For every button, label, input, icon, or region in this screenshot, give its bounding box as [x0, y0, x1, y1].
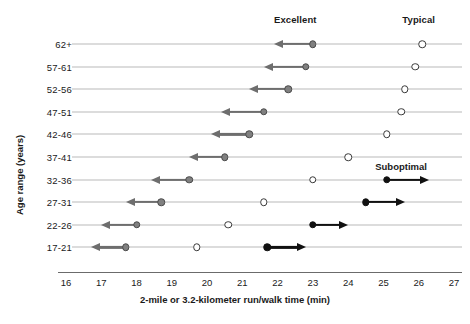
y-tick-label: 32-36 [47, 174, 72, 185]
range-arrow-head [189, 153, 198, 161]
x-tick-label: 18 [131, 277, 142, 288]
range-arrow-head [126, 198, 135, 206]
data-point-typical [309, 176, 317, 184]
y-tick-label: 57-61 [47, 61, 72, 72]
data-point-typical [344, 153, 352, 161]
data-point-excellent [186, 176, 194, 184]
y-tick-label: 62+ [55, 39, 72, 50]
row-baseline [72, 134, 462, 135]
x-axis-label: 2-mile or 3.2-kilometer run/walk time (m… [0, 294, 470, 305]
data-point-typical [411, 63, 419, 71]
data-point-excellent [284, 85, 292, 93]
data-point-excellent [157, 198, 165, 206]
y-tick-label: 27-31 [47, 197, 72, 208]
data-point-typical [397, 108, 405, 116]
range-arrow-head [101, 221, 110, 229]
data-point-typical [419, 40, 427, 48]
data-point-excellent [122, 244, 130, 252]
row-baseline [72, 157, 462, 158]
x-tick-label: 25 [378, 277, 389, 288]
annotation-suboptimal: Suboptimal [375, 161, 427, 172]
x-axis-line [58, 272, 462, 273]
range-arrow-shaft [313, 224, 341, 226]
range-arrow-head [274, 40, 283, 48]
range-arrow-head [91, 243, 100, 251]
y-tick-label: 37-41 [47, 152, 72, 163]
data-point-suboptimal [362, 198, 370, 206]
y-axis-label: Age range (years) [14, 135, 25, 215]
data-point-excellent [309, 40, 317, 48]
range-arrow-shaft [158, 179, 190, 181]
y-tick-label: 22-26 [47, 219, 72, 230]
range-arrow-head [211, 130, 220, 138]
range-arrow-head [249, 85, 258, 93]
data-point-suboptimal [383, 176, 391, 184]
x-tick-label: 23 [308, 277, 319, 288]
x-tick-label: 16 [61, 277, 72, 288]
range-arrow-shaft [271, 66, 306, 68]
range-arrow-head [151, 176, 160, 184]
data-point-typical [383, 131, 391, 139]
run-walk-time-chart: Age range (years) ExcellentTypicalSubopt… [0, 0, 470, 324]
x-tick-label: 22 [272, 277, 283, 288]
range-arrow-head [420, 176, 429, 184]
x-tick-label: 17 [96, 277, 107, 288]
x-tick-label: 26 [413, 277, 424, 288]
data-point-typical [225, 221, 233, 229]
x-tick-label: 20 [202, 277, 213, 288]
data-point-suboptimal [263, 244, 271, 252]
range-arrow-head [221, 108, 230, 116]
data-point-excellent [133, 221, 141, 229]
y-tick-label: 52-56 [47, 84, 72, 95]
range-arrow-shaft [228, 111, 263, 113]
y-tick-label: 47-51 [47, 106, 72, 117]
range-arrow-shaft [218, 133, 250, 135]
range-arrow-head [396, 198, 405, 206]
range-arrow-shaft [281, 43, 313, 45]
data-point-excellent [260, 108, 268, 116]
range-arrow-head [297, 243, 306, 251]
range-arrow-head [264, 63, 273, 71]
range-arrow-head [339, 221, 348, 229]
y-tick-label: 17-21 [47, 242, 72, 253]
x-tick-label: 24 [343, 277, 354, 288]
range-arrow-shaft [267, 246, 299, 248]
data-point-excellent [221, 153, 229, 161]
x-tick-label: 19 [167, 277, 178, 288]
range-arrow-shaft [387, 179, 422, 181]
y-tick-label: 42-46 [47, 129, 72, 140]
range-arrow-shaft [256, 88, 288, 90]
annotation-excellent: Excellent [274, 14, 317, 25]
range-arrow-shaft [366, 201, 398, 203]
x-tick-label: 27 [449, 277, 460, 288]
x-tick-label: 21 [237, 277, 248, 288]
data-point-typical [401, 85, 409, 93]
data-point-typical [193, 244, 201, 252]
data-point-excellent [302, 63, 310, 71]
data-point-typical [260, 198, 268, 206]
data-point-suboptimal [309, 221, 317, 229]
row-baseline [72, 44, 462, 45]
annotation-typical: Typical [402, 14, 435, 25]
data-point-excellent [246, 131, 254, 139]
